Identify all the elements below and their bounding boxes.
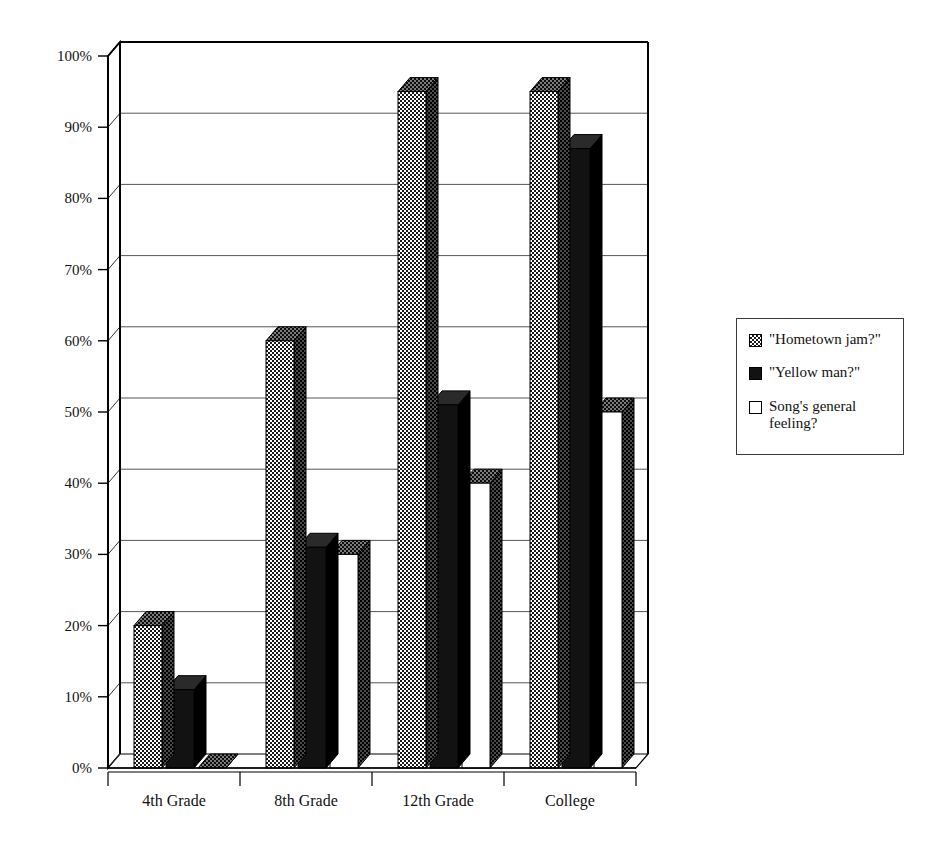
x-category-label: 4th Grade bbox=[142, 792, 206, 809]
y-tick-label: 40% bbox=[65, 475, 93, 491]
y-tick-label: 60% bbox=[65, 333, 93, 349]
bar-college-s1 bbox=[530, 78, 570, 768]
legend-item: "Hometown jam?" bbox=[749, 331, 893, 348]
x-category-label: College bbox=[545, 792, 595, 810]
y-tick-label: 20% bbox=[65, 618, 93, 634]
x-category-label: 8th Grade bbox=[274, 792, 338, 809]
y-tick-label: 70% bbox=[65, 262, 93, 278]
legend-item: Song's general feeling? bbox=[749, 398, 893, 433]
bar-4th-grade-s1 bbox=[134, 612, 174, 768]
y-tick-label: 30% bbox=[65, 546, 93, 562]
legend-item: "Yellow man?" bbox=[749, 364, 893, 381]
y-tick-label: 0% bbox=[72, 760, 92, 776]
bar-8th-grade-s1 bbox=[266, 327, 306, 768]
y-tick-label: 90% bbox=[65, 119, 93, 135]
y-tick-label: 100% bbox=[57, 48, 92, 64]
y-tick-label: 80% bbox=[65, 190, 93, 206]
bar-chart-figure: 0%10%20%30%40%50%60%70%80%90%100% 4th Gr… bbox=[0, 0, 951, 858]
x-category-label: 12th Grade bbox=[402, 792, 474, 809]
y-tick-label: 10% bbox=[65, 689, 93, 705]
bar-12th-grade-s1 bbox=[398, 78, 438, 768]
chart-legend: "Hometown jam?" "Yellow man?" Song's gen… bbox=[736, 318, 904, 455]
legend-label: "Hometown jam?" bbox=[769, 331, 881, 348]
y-tick-label: 50% bbox=[65, 404, 93, 420]
checkered-swatch-icon bbox=[749, 334, 762, 347]
white-swatch-icon bbox=[749, 401, 762, 414]
legend-label: Song's general feeling? bbox=[769, 398, 856, 433]
black-swatch-icon bbox=[749, 367, 762, 380]
legend-label: "Yellow man?" bbox=[769, 364, 860, 381]
